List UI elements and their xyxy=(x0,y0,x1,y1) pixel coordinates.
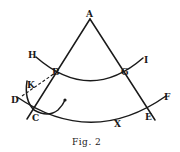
figure-caption: Fig. 2 xyxy=(72,137,101,147)
label-a: A xyxy=(85,9,94,19)
label-h: H xyxy=(28,50,37,60)
label-b: B xyxy=(52,67,60,77)
label-k: K xyxy=(27,80,36,90)
geometry-figure: A H B G I K D C X E F Fig. 2 xyxy=(0,0,180,152)
label-c: C xyxy=(32,113,39,123)
label-i: I xyxy=(144,55,148,65)
label-d: D xyxy=(11,95,19,105)
label-f: F xyxy=(164,92,171,102)
label-x: X xyxy=(114,119,121,129)
hook-dot xyxy=(63,98,66,101)
label-g: G xyxy=(121,67,129,77)
label-e: E xyxy=(145,112,152,122)
